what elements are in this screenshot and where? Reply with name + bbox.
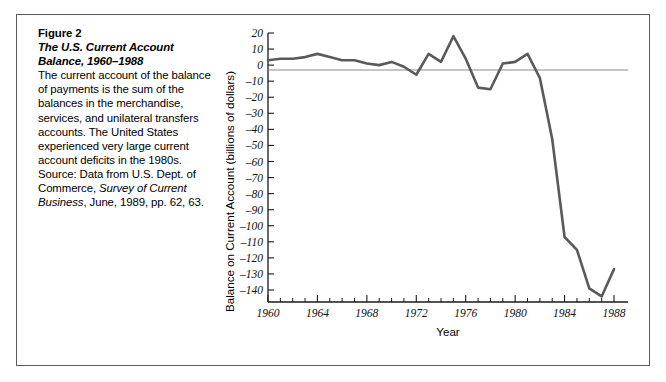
figure-title: The U.S. Current Account Balance, 1960–1… [38, 40, 214, 68]
y-tick-label: –120 [239, 252, 263, 264]
y-tick-label: –130 [239, 268, 263, 280]
y-tick-label: –110 [240, 236, 263, 248]
x-tick-label: 1964 [306, 307, 329, 319]
y-tick-label: –10 [245, 75, 264, 87]
x-tick-label: 1968 [355, 307, 378, 319]
axes-group [268, 33, 628, 302]
figure-source: Source: Data from U.S. Dept. of Commerce… [38, 167, 214, 209]
line-chart: Balance on Current Account (billions of … [222, 20, 642, 360]
y-tick-label: 10 [252, 43, 264, 55]
y-tick-label: –20 [245, 91, 264, 103]
x-tick-label: 1984 [553, 307, 576, 319]
y-tick-label: –60 [245, 156, 264, 168]
x-tick-label: 1960 [257, 307, 280, 319]
y-axis-title: Balance on Current Account (billions of … [223, 71, 236, 312]
y-tick-label: –140 [239, 284, 263, 296]
y-tick-label: 20 [252, 27, 264, 39]
current-account-line [268, 36, 614, 296]
x-tick-label: 1976 [454, 307, 477, 319]
x-tick-label: 1972 [405, 307, 428, 319]
plot-area: Balance on Current Account (billions of … [222, 20, 642, 360]
y-tick-label: –50 [245, 139, 264, 151]
figure-caption: Figure 2 The U.S. Current Account Balanc… [38, 26, 214, 209]
figure-description: The current account of the balance of pa… [38, 68, 214, 167]
y-tick-label: 0 [257, 59, 263, 71]
y-tick-label: –70 [245, 172, 264, 184]
x-tick-label: 1980 [504, 307, 527, 319]
x-axis-title: Year [436, 325, 460, 338]
y-tick-label: –80 [245, 188, 264, 200]
y-tick-label: –40 [245, 123, 264, 135]
x-tick-label: 1988 [603, 307, 626, 319]
figure-number: Figure 2 [38, 26, 214, 40]
y-tick-label: –30 [245, 107, 264, 119]
y-axis-title-group: Balance on Current Account (billions of … [223, 71, 236, 312]
y-tick-label: –90 [245, 204, 264, 216]
x-tick-group: 19601964196819721976198019841988 [257, 295, 626, 319]
source-suffix: , June, 1989, pp. 62, 63. [83, 196, 203, 208]
y-tick-group: 20100–10–20–30–40–50–60–70–80–90–100–110… [239, 27, 274, 296]
y-tick-label: –100 [239, 220, 263, 232]
figure-container: Figure 2 The U.S. Current Account Balanc… [0, 0, 666, 382]
